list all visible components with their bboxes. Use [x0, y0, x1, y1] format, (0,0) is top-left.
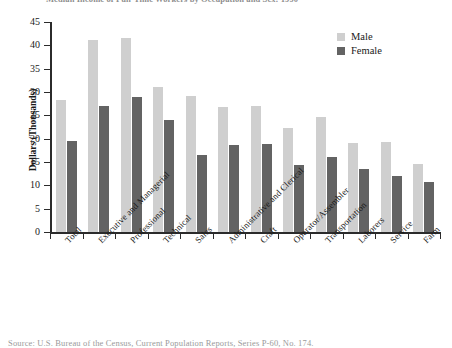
y-tick-label: 20 — [30, 132, 40, 145]
x-tick — [213, 233, 214, 239]
x-tick — [180, 233, 181, 239]
chart-figure: Median Income of Full-Time Workers by Oc… — [0, 0, 452, 348]
y-tick-label: 45 — [30, 15, 40, 28]
source-note: Source: U.S. Bureau of the Census, Curre… — [8, 338, 314, 348]
x-tick — [310, 233, 311, 239]
bar-male — [413, 164, 423, 232]
x-tick — [343, 233, 344, 239]
legend-label: Male — [351, 31, 373, 42]
y-tick-label: 5 — [35, 202, 40, 215]
bar-male — [56, 100, 66, 232]
x-tick — [375, 233, 376, 239]
bar-female — [197, 155, 207, 232]
y-tick-label: 15 — [30, 155, 40, 168]
bar-group — [408, 22, 441, 232]
bar-group — [50, 22, 83, 232]
y-tick-label: 30 — [30, 85, 40, 98]
bar-female — [67, 141, 77, 232]
bar-group — [213, 22, 246, 232]
y-tick-label: 35 — [30, 62, 40, 75]
x-tick — [440, 233, 441, 239]
x-tick — [115, 233, 116, 239]
x-tick — [148, 233, 149, 239]
x-tick — [83, 233, 84, 239]
bar-group — [83, 22, 116, 232]
legend-label: Female — [351, 45, 382, 56]
y-tick-label: 0 — [35, 225, 40, 238]
y-tick-label: 25 — [30, 108, 40, 121]
legend-swatch-male — [337, 33, 345, 41]
bar-female — [99, 106, 109, 232]
bar-female — [229, 145, 239, 232]
x-tick — [245, 233, 246, 239]
bar-female — [262, 144, 272, 232]
bar-group — [278, 22, 311, 232]
y-tick-label: 40 — [30, 38, 40, 51]
chart-legend: MaleFemale — [337, 30, 382, 58]
legend-item-male: Male — [337, 30, 382, 43]
x-tick — [408, 233, 409, 239]
bar-group — [148, 22, 181, 232]
legend-swatch-female — [337, 47, 345, 55]
bar-male — [88, 40, 98, 232]
bar-group — [180, 22, 213, 232]
chart-title: Median Income of Full-Time Workers by Oc… — [46, 0, 298, 4]
bar-female — [392, 176, 402, 232]
legend-item-female: Female — [337, 44, 382, 57]
x-tick — [278, 233, 279, 239]
y-tick-label: 10 — [30, 178, 40, 191]
x-tick — [50, 233, 51, 239]
bar-male — [186, 96, 196, 232]
bar-male — [218, 107, 228, 232]
